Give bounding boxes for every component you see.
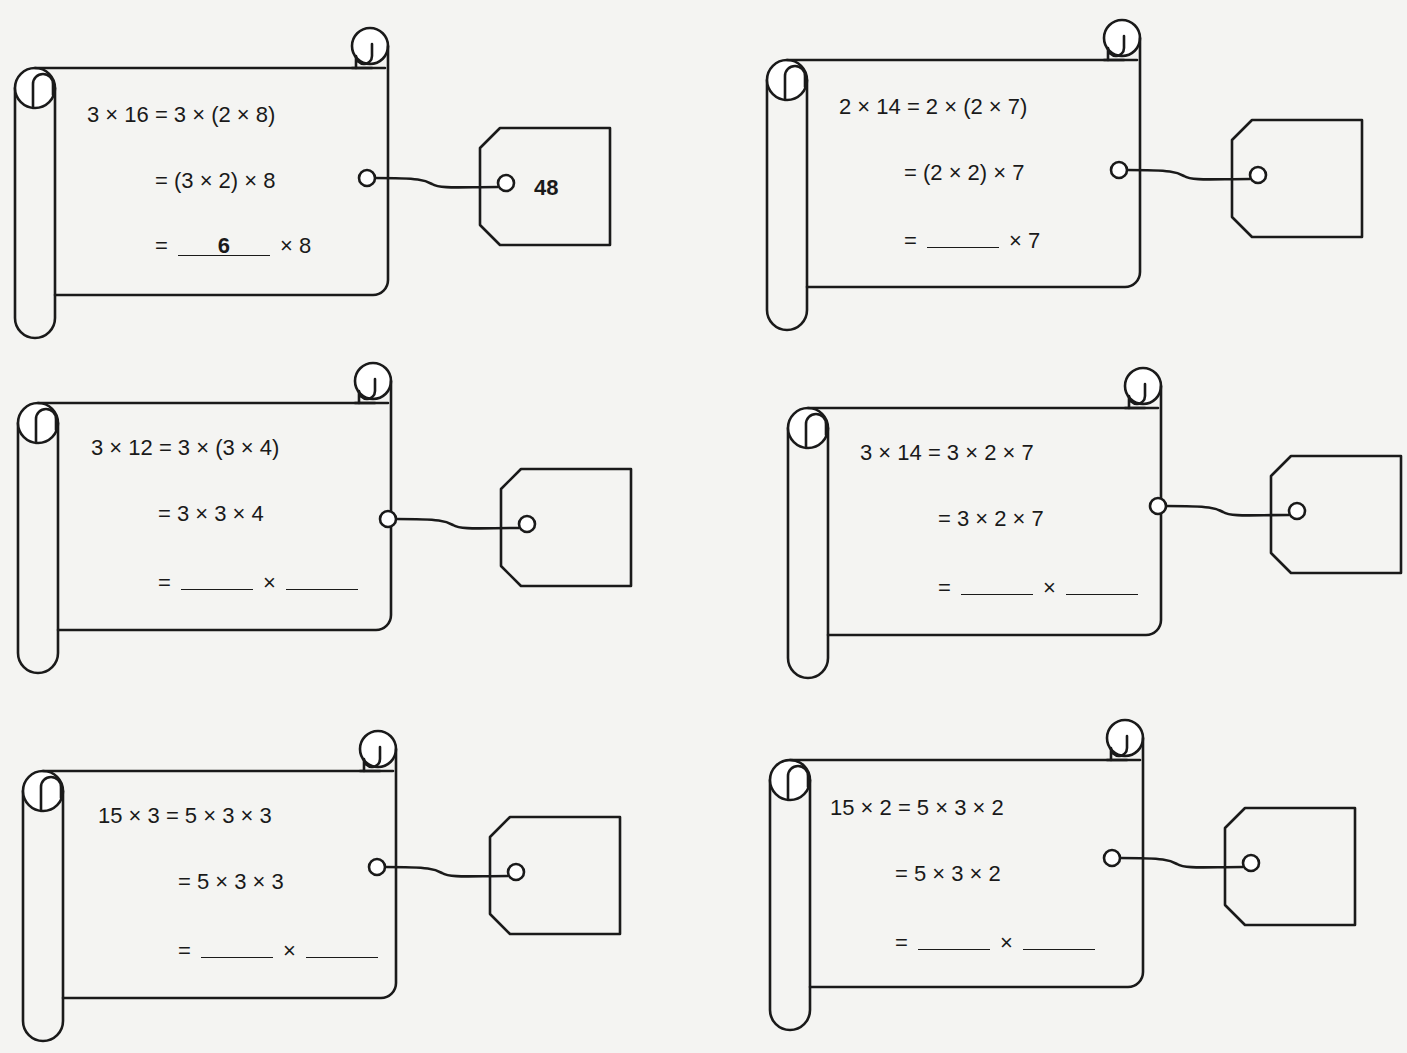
equation-line-3: = × xyxy=(938,572,1142,601)
equation-line-2: = 3 × 3 × 4 xyxy=(158,501,264,527)
equation-suffix: × 7 xyxy=(1009,228,1040,253)
answer-blank-1[interactable] xyxy=(918,927,990,950)
equation-line-3: = × xyxy=(895,927,1099,956)
equation-line-1: 15 × 3 = 5 × 3 × 3 xyxy=(98,803,272,829)
scroll-icon xyxy=(8,703,658,1043)
equals-sign: = xyxy=(904,228,917,253)
scroll-icon xyxy=(3,335,653,675)
equation-line-1: 3 × 14 = 3 × 2 × 7 xyxy=(860,440,1034,466)
answer-blank-1[interactable] xyxy=(927,225,999,248)
equals-sign: = xyxy=(158,570,171,595)
equation-suffix: × 8 xyxy=(280,233,311,258)
exercise-6: 15 × 2 = 5 × 3 × 2 = 5 × 3 × 2 = × xyxy=(755,692,1405,1032)
times-sign: × xyxy=(263,570,276,595)
scroll-icon xyxy=(752,0,1402,332)
equation-line-2: = 3 × 2 × 7 xyxy=(938,506,1044,532)
exercise-5: 15 × 3 = 5 × 3 × 3 = 5 × 3 × 3 = × xyxy=(8,703,658,1043)
equation-line-1: 15 × 2 = 5 × 3 × 2 xyxy=(830,795,1004,821)
equation-line-2: = 5 × 3 × 3 xyxy=(178,869,284,895)
tag-answer[interactable]: 48 xyxy=(534,175,558,201)
equation-line-1: 3 × 12 = 3 × (3 × 4) xyxy=(91,435,279,461)
equation-line-2: = 5 × 3 × 2 xyxy=(895,861,1001,887)
equation-line-3: = × xyxy=(158,567,362,596)
answer-blank-1[interactable] xyxy=(201,935,273,958)
exercise-2: 2 × 14 = 2 × (2 × 7) = (2 × 2) × 7 = × 7 xyxy=(752,0,1402,332)
answer-blank-2[interactable] xyxy=(286,567,358,590)
equals-sign: = xyxy=(938,575,951,600)
times-sign: × xyxy=(1043,575,1056,600)
answer-blank-1[interactable]: 6 xyxy=(178,233,270,256)
equation-line-3: = × 7 xyxy=(904,225,1040,254)
scroll-icon xyxy=(773,340,1407,680)
exercise-1: 3 × 16 = 3 × (2 × 8) = (3 × 2) × 8 = 6 ×… xyxy=(0,0,650,340)
scroll-icon xyxy=(755,692,1405,1032)
answer-blank-2[interactable] xyxy=(1023,927,1095,950)
scroll-icon xyxy=(0,0,650,340)
equation-line-2: = (2 × 2) × 7 xyxy=(904,160,1024,186)
times-sign: × xyxy=(283,938,296,963)
equation-line-1: 2 × 14 = 2 × (2 × 7) xyxy=(839,94,1027,120)
equals-sign: = xyxy=(178,938,191,963)
equation-line-2: = (3 × 2) × 8 xyxy=(155,168,275,194)
equation-line-3: = × xyxy=(178,935,382,964)
answer-blank-1[interactable] xyxy=(961,572,1033,595)
times-sign: × xyxy=(1000,930,1013,955)
exercise-4: 3 × 14 = 3 × 2 × 7 = 3 × 2 × 7 = × xyxy=(773,340,1407,680)
equals-sign: = xyxy=(895,930,908,955)
equals-sign: = xyxy=(155,233,168,258)
answer-blank-1[interactable] xyxy=(181,567,253,590)
answer-blank-2[interactable] xyxy=(306,935,378,958)
equation-line-3: = 6 × 8 xyxy=(155,233,311,259)
equation-line-1: 3 × 16 = 3 × (2 × 8) xyxy=(87,102,275,128)
answer-blank-2[interactable] xyxy=(1066,572,1138,595)
exercise-3: 3 × 12 = 3 × (3 × 4) = 3 × 3 × 4 = × xyxy=(3,335,653,675)
